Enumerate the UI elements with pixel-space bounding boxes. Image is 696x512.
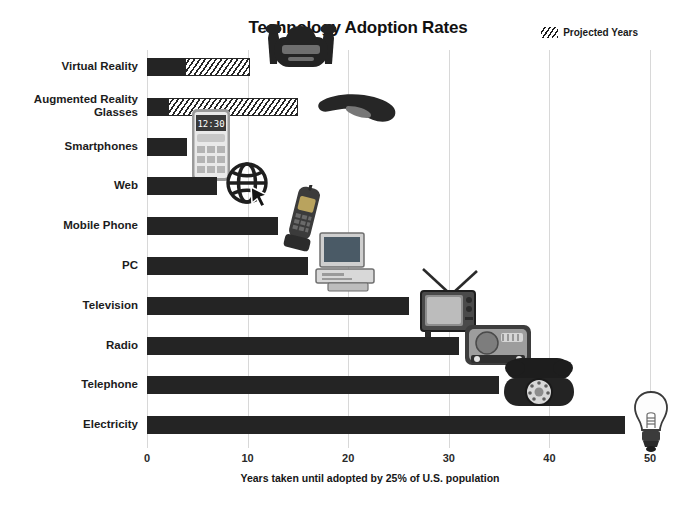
globe-cursor-icon: [223, 159, 275, 215]
bar-segment-projected: [185, 58, 249, 76]
bar-radio[interactable]: [147, 337, 459, 355]
bar-segment-actual: [147, 98, 168, 116]
bar-pc[interactable]: [147, 257, 308, 275]
y-axis-label-pc: PC: [0, 259, 147, 272]
x-tick-label-30: 30: [443, 452, 455, 464]
chart-legend: Projected Years: [541, 27, 638, 38]
bar-segment-actual: [147, 217, 278, 235]
x-tick-label-20: 20: [342, 452, 354, 464]
bar-virtual-reality[interactable]: [147, 58, 250, 76]
y-axis-label-virtual-reality: Virtual Reality: [0, 60, 147, 73]
bar-segment-actual: [147, 297, 409, 315]
y-axis-label-smartphones: Smartphones: [0, 140, 147, 153]
x-tick-label-40: 40: [543, 452, 555, 464]
x-axis-tick-labels: 01020304050: [147, 452, 650, 468]
x-axis-title: Years taken until adopted by 25% of U.S.…: [0, 472, 696, 484]
y-axis-label-mobile-phone: Mobile Phone: [0, 219, 147, 232]
ar-glasses-icon: [312, 92, 400, 136]
bar-television[interactable]: [147, 297, 409, 315]
bar-segment-actual: [147, 337, 459, 355]
bar-segment-actual: [147, 257, 308, 275]
bar-segment-actual: [147, 138, 187, 156]
y-axis-label-radio: Radio: [0, 339, 147, 352]
bar-segment-actual: [147, 177, 217, 195]
bar-augmented-reality-glasses[interactable]: [147, 98, 298, 116]
x-tick-label-0: 0: [144, 452, 150, 464]
vintage-radio-icon: [463, 319, 533, 373]
bar-web[interactable]: [147, 177, 217, 195]
gridline-50: [650, 50, 651, 448]
x-tick-label-50: 50: [644, 452, 656, 464]
flip-phone-icon: [282, 185, 324, 265]
gridline-40: [549, 50, 550, 448]
bar-segment-actual: [147, 416, 625, 434]
bar-segment-actual: [147, 376, 499, 394]
y-axis-label-electricity: Electricity: [0, 418, 147, 431]
y-axis-label-telephone: Telephone: [0, 378, 147, 391]
desktop-computer-icon: [314, 231, 378, 297]
smartphone-icon: 12:30: [191, 108, 231, 186]
projected-years-hatch-swatch-icon: [541, 27, 558, 38]
bar-telephone[interactable]: [147, 376, 499, 394]
y-axis-label-television: Television: [0, 299, 147, 312]
bar-mobile-phone[interactable]: [147, 217, 278, 235]
bar-electricity[interactable]: [147, 416, 625, 434]
plot-area: 12:30: [147, 50, 650, 448]
y-axis-label-web: Web: [0, 179, 147, 192]
x-tick-label-10: 10: [241, 452, 253, 464]
legend-item-label-projected-years: Projected Years: [563, 27, 638, 38]
y-axis-label-augmented-reality-glasses: Augmented RealityGlasses: [0, 93, 147, 119]
bar-smartphones[interactable]: [147, 138, 187, 156]
bar-segment-projected: [168, 98, 298, 116]
svg-text:12:30: 12:30: [198, 119, 225, 129]
technology-adoption-chart: Technology Adoption Rates Projected Year…: [0, 0, 696, 512]
y-axis-category-labels: Virtual RealityAugmented RealityGlassesS…: [0, 50, 138, 448]
rotary-telephone-icon: [501, 354, 577, 414]
bar-segment-actual: [147, 58, 185, 76]
